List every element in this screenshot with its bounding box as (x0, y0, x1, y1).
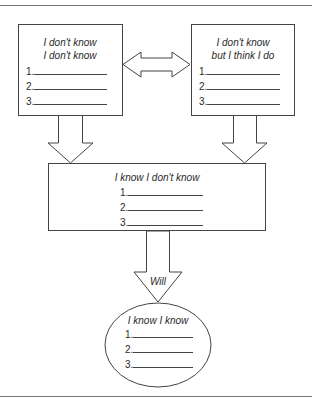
blank-line[interactable] (207, 94, 280, 105)
ellipse-title: I know I know (110, 314, 206, 327)
list-item: 3. (199, 94, 287, 109)
list-item: 1. (120, 185, 266, 200)
box-title: I know I don't know (48, 171, 266, 184)
will-label: Will (150, 276, 166, 287)
blank-line[interactable] (34, 64, 107, 75)
list-item: 2. (26, 79, 114, 94)
blank-line[interactable] (207, 64, 280, 75)
box-false-knowledge-content: I don't know but I think I do 1. 2. 3. (199, 36, 287, 109)
list-item: 1. (26, 64, 114, 79)
blank-line[interactable] (207, 79, 280, 90)
blank-line[interactable] (128, 215, 203, 226)
box-title-line2: I don't know (26, 49, 114, 62)
double-arrow-icon (123, 52, 190, 77)
box-title-line2: but I think I do (199, 49, 287, 62)
box-title-line1: I don't know (199, 36, 287, 49)
blank-line[interactable] (34, 79, 107, 90)
list-item: 3. (120, 215, 266, 230)
blank-line[interactable] (128, 185, 203, 196)
blank-line[interactable] (128, 200, 203, 211)
blank-line[interactable] (133, 342, 193, 353)
ellipse-known-knowns-content: I know I know 1. 2. 3. (110, 314, 206, 372)
list-item: 1. (199, 64, 287, 79)
box-unknown-unknowns-content: I don't know I don't know 1. 2. 3. (26, 36, 114, 109)
list-item: 2. (125, 342, 206, 357)
box-title-line1: I don't know (26, 36, 114, 49)
blank-line[interactable] (133, 357, 193, 368)
list-item: 2. (120, 200, 266, 215)
box-known-unknowns-content: I know I don't know 1. 2. 3. (48, 171, 266, 230)
blank-line[interactable] (34, 94, 107, 105)
list-item: 2. (199, 79, 287, 94)
list-item: 1. (125, 327, 206, 342)
will-arrow-icon (134, 231, 182, 302)
list-item: 3. (125, 357, 206, 372)
blank-line[interactable] (133, 327, 193, 338)
down-arrow-left-icon (48, 116, 93, 164)
down-arrow-right-icon (222, 116, 267, 164)
list-item: 3. (26, 94, 114, 109)
